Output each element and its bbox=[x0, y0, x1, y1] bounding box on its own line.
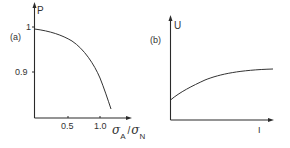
panel-b-label: (b) bbox=[150, 35, 161, 45]
figure: P 1 0.9 0.5 1.0 (a) σA/σN U I (b) bbox=[0, 0, 290, 148]
panel-b-curve bbox=[171, 69, 274, 100]
panel-b-y-label: U bbox=[174, 20, 181, 31]
panel-a-xtick-label-10: 1.0 bbox=[94, 121, 107, 131]
panel-a: P 1 0.9 0.5 1.0 (a) σA/σN bbox=[10, 2, 146, 141]
slash: / bbox=[128, 125, 131, 136]
panel-a-xtick-label-05: 0.5 bbox=[61, 121, 74, 131]
panel-b-x-label: I bbox=[258, 125, 261, 135]
sub-n: N bbox=[140, 132, 146, 141]
panel-a-curve bbox=[35, 29, 112, 109]
panel-b-y-arrow-icon bbox=[169, 15, 173, 21]
panel-b: U I (b) bbox=[150, 15, 274, 135]
panel-a-label: (a) bbox=[10, 32, 21, 42]
panel-a-x-label: σA/σN bbox=[112, 123, 146, 141]
sub-a: A bbox=[120, 132, 126, 141]
panel-a-ytick-label-09: 0.9 bbox=[15, 67, 28, 77]
panel-a-y-label: P bbox=[37, 5, 44, 16]
panel-a-ytick-label-1: 1 bbox=[26, 22, 31, 32]
panel-b-x-arrow-icon bbox=[268, 118, 274, 122]
panel-a-x-arrow-icon bbox=[126, 116, 132, 120]
panel-a-y-arrow-icon bbox=[33, 2, 37, 8]
